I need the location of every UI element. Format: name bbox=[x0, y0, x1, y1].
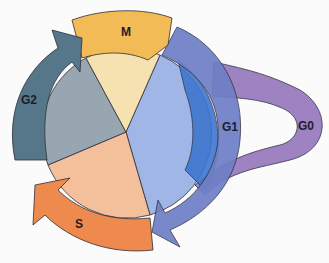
label-g0: G0 bbox=[298, 119, 314, 133]
label-m: M bbox=[121, 25, 131, 39]
cell-cycle-diagram: M G1 S G2 G0 bbox=[0, 0, 329, 263]
label-g1: G1 bbox=[222, 120, 238, 134]
label-g2: G2 bbox=[21, 93, 37, 107]
label-s: S bbox=[75, 217, 83, 231]
